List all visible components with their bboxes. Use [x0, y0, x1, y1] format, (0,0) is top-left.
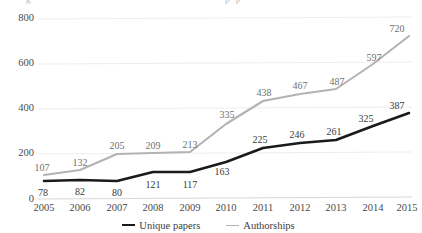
data-label-unique-papers-2010: 163: [202, 167, 242, 177]
data-label-unique-papers-2008: 121: [133, 180, 173, 190]
data-label-unique-papers-2014: 325: [346, 114, 386, 124]
data-label-unique-papers-2013: 261: [314, 127, 354, 137]
data-label-authorships-2012: 467: [280, 81, 320, 91]
data-label-authorships-2011: 438: [244, 88, 284, 98]
data-label-unique-papers-2005: 78: [23, 188, 63, 198]
data-label-unique-papers-2012: 246: [277, 130, 317, 140]
legend-entry-unique-papers[interactable]: Unique papers: [122, 220, 200, 231]
legend-line-swatch-icon: [226, 225, 239, 226]
data-label-authorships-2006: 132: [60, 158, 100, 168]
data-label-unique-papers-2009: 117: [170, 180, 210, 190]
data-label-unique-papers-2011: 225: [240, 135, 280, 145]
legend-label-authorships: Authorships: [243, 220, 294, 231]
legend-line-swatch-icon: [122, 224, 135, 226]
legend-label-unique-papers: Unique papers: [139, 220, 200, 231]
data-label-unique-papers-2015: 387: [377, 101, 417, 111]
data-label-authorships-2009: 213: [170, 140, 210, 150]
data-label-authorships-2007: 205: [97, 141, 137, 151]
data-label-unique-papers-2006: 82: [60, 187, 100, 197]
data-label-unique-papers-2007: 80: [97, 188, 137, 198]
data-label-authorships-2008: 209: [133, 141, 173, 151]
data-label-authorships-2010: 335: [207, 110, 247, 120]
data-label-authorships-2013: 487: [317, 77, 357, 87]
data-label-authorships-2005: 107: [22, 163, 62, 173]
data-label-authorships-2015: 720: [377, 24, 417, 34]
legend-entry-authorships[interactable]: Authorships: [226, 220, 294, 231]
data-label-authorships-2014: 597: [354, 53, 394, 63]
chart-legend: Unique papers Authorships: [0, 217, 417, 233]
